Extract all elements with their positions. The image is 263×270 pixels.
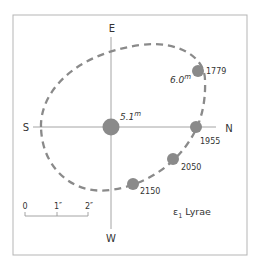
scale-tick-label: 0	[22, 202, 27, 211]
orbit-diagram: E W S N 5.1m 6.0m 1779 1955 2050 2150 0 …	[0, 0, 263, 270]
label-south: S	[23, 122, 29, 133]
year-label: 1779	[206, 67, 226, 76]
companion-1955	[190, 121, 202, 133]
primary-magnitude: 5.1m	[120, 110, 141, 122]
scale-bar: 0 1″ 2″	[22, 202, 93, 216]
year-label: 2050	[181, 163, 201, 172]
primary-star	[103, 119, 120, 136]
companion-2050	[167, 153, 179, 165]
companion-1779	[192, 65, 204, 77]
year-label: 1955	[200, 137, 220, 146]
label-east: E	[109, 23, 115, 34]
frame	[13, 15, 247, 255]
label-north: N	[225, 123, 232, 134]
star-name: ε1Lyrae	[173, 206, 211, 220]
scale-tick-label: 2″	[85, 202, 93, 211]
year-label: 2150	[140, 187, 160, 196]
companion-magnitude: 6.0m	[170, 73, 191, 85]
companion-2150	[127, 178, 139, 190]
scale-tick-label: 1″	[54, 202, 62, 211]
label-west: W	[106, 233, 116, 244]
